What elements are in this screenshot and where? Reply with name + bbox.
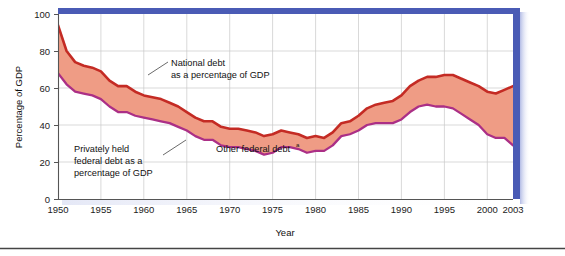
other-federal-debt-label: Other federal debt	[216, 144, 291, 154]
y-tick-label: 80	[39, 46, 50, 57]
national-debt-annotation-line-2: as a percentage of GDP	[171, 70, 270, 80]
y-tick-marks	[54, 15, 58, 200]
x-tick-label: 1975	[262, 204, 283, 215]
privately-held-annotation-line-2: federal debt as a	[74, 156, 143, 166]
y-tick-label: 20	[39, 157, 50, 168]
y-tick-labels: 100 80 60 40 20 0	[34, 9, 50, 205]
x-tick-label: 1950	[47, 204, 68, 215]
x-tick-label: 1995	[434, 204, 455, 215]
figure-container: 100 80 60 40 20 0 Percentage of GDP 1950…	[0, 0, 565, 256]
x-tick-label: 1985	[348, 204, 369, 215]
x-tick-label: 1955	[90, 204, 111, 215]
x-tick-label: 1960	[133, 204, 154, 215]
y-tick-label: 60	[39, 83, 50, 94]
x-tick-label: 2000	[477, 204, 498, 215]
other-federal-debt-annotation: Other federal debt a	[216, 142, 300, 154]
y-tick-label: 40	[39, 120, 50, 131]
y-axis-title: Percentage of GDP	[13, 66, 24, 148]
x-tick-label: 1965	[176, 204, 197, 215]
national-debt-annotation-line-1: National debt	[171, 58, 226, 68]
gdp-debt-area-chart: 100 80 60 40 20 0 Percentage of GDP 1950…	[0, 0, 565, 256]
privately-held-annotation-line-3: percentage of GDP	[74, 168, 153, 178]
x-tick-label: 1990	[391, 204, 412, 215]
privately-held-annotation-line-1: Privately held	[74, 144, 129, 154]
x-tick-label: 1980	[305, 204, 326, 215]
x-tick-label: 1970	[219, 204, 240, 215]
x-tick-label: 2003	[502, 204, 523, 215]
y-tick-label: 100	[34, 9, 50, 20]
x-tick-labels: 1950 1955 1960 1965 1970 1975 1980 1985 …	[47, 204, 523, 215]
x-axis-title: Year	[275, 227, 294, 238]
